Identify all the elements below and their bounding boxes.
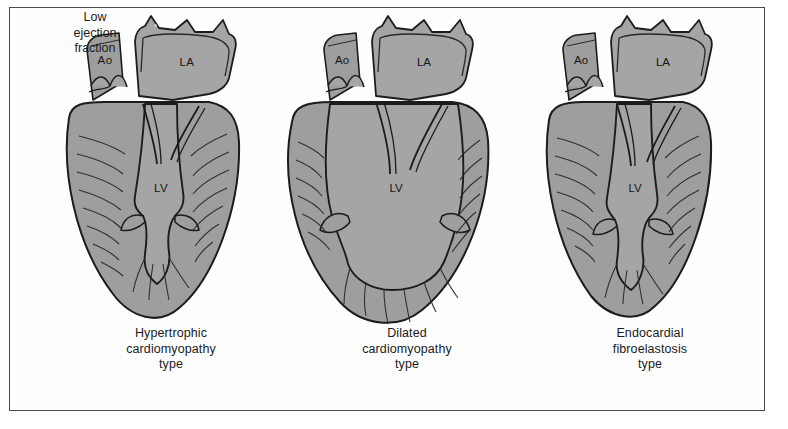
heart-dilated: Ao LA LV — [288, 16, 488, 324]
label-aorta: Ao — [335, 54, 349, 66]
caption-line-2: cardiomyopathy — [322, 342, 492, 358]
caption-line-2: cardiomyopathy — [86, 342, 256, 358]
caption-line-1: Hypertrophic — [86, 326, 256, 342]
label-left-atrium: LA — [180, 56, 195, 68]
caption-line-3: type — [322, 357, 492, 373]
caption-line-2: fibroelastosis — [560, 342, 740, 358]
annotation-line-3: fraction — [50, 41, 140, 57]
label-left-atrium: LA — [417, 56, 431, 68]
label-left-ventricle: LV — [389, 182, 403, 194]
caption-hypertrophic: Hypertrophic cardiomyopathy type — [86, 326, 256, 373]
label-left-ventricle: LV — [628, 182, 642, 194]
heart-hypertrophic: Ao LA LV — [67, 16, 239, 318]
caption-endocardial-fibroelastosis: Endocardial fibroelastosis type — [560, 326, 740, 373]
caption-line-1: Endocardial — [560, 326, 740, 342]
annotation-line-2: ejection — [50, 26, 140, 42]
label-left-atrium: LA — [656, 56, 670, 68]
label-left-ventricle: LV — [154, 182, 168, 194]
caption-line-3: type — [560, 357, 740, 373]
low-ejection-fraction-annotation: Low ejection fraction — [50, 10, 140, 57]
caption-line-1: Dilated — [322, 326, 492, 342]
heart-endocardial-fibroelastosis: Ao LA LV — [547, 16, 712, 317]
annotation-line-1: Low — [50, 10, 140, 26]
label-aorta: Ao — [574, 54, 588, 66]
figure-page: Ao LA LV — [0, 0, 788, 429]
caption-dilated: Dilated cardiomyopathy type — [322, 326, 492, 373]
page-speck — [154, 24, 157, 27]
caption-line-3: type — [86, 357, 256, 373]
